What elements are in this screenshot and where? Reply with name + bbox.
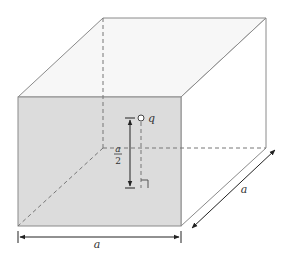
depth-label: a [241,183,248,196]
charge-label: q [148,112,155,125]
cube-diagram: q a 2 a a [0,0,298,258]
width-label: a [94,238,101,251]
height-label-denominator: 2 [115,156,121,166]
charge-q-icon [138,115,144,121]
height-label-numerator: a [115,144,120,154]
cube-front-face [18,97,181,226]
